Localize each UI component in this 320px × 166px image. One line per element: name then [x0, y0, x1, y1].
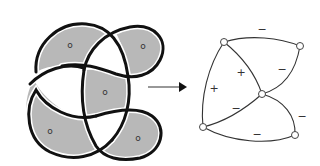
sign-top-left-top-right: −: [257, 23, 266, 36]
vertex-center: [259, 91, 266, 98]
edge-bottom-left-bottom-right: [203, 127, 295, 141]
vertex-bottom-right: [292, 132, 299, 139]
arrow-head-icon: [179, 82, 187, 92]
label-region-center: o: [102, 87, 108, 97]
vertex-bottom-left: [200, 124, 207, 131]
edge-center-bottom-right: [262, 94, 295, 135]
label-region-top-right: o: [140, 41, 146, 51]
sign-center-bottom-right: −: [297, 110, 306, 123]
transform-arrow: [148, 82, 187, 92]
diagram-canvas: o o o o o − −: [0, 0, 320, 166]
vertex-top-right: [297, 43, 304, 50]
sign-top-left-center: +: [236, 66, 245, 79]
sign-center-bottom-left: −: [231, 102, 240, 115]
edge-top-left-top-right: [224, 38, 300, 46]
signed-graph: − − + + − − −: [200, 23, 307, 141]
label-region-bottom-left: o: [47, 126, 53, 136]
sign-bottom-left-bottom-right: −: [252, 128, 261, 141]
label-region-top-left: o: [67, 40, 73, 50]
knot-diagram: o o o o o: [26, 24, 163, 160]
sign-top-right-center: −: [277, 63, 286, 76]
sign-top-left-bottom-left: +: [209, 82, 218, 95]
label-region-bottom-right: o: [135, 133, 141, 143]
vertex-top-left: [221, 39, 228, 46]
